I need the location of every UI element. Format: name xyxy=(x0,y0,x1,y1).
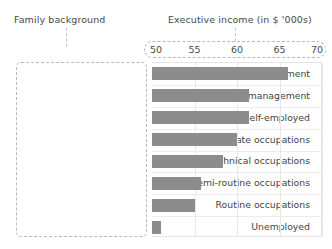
family-background-heading: Family background xyxy=(14,14,105,25)
bar xyxy=(152,89,249,102)
bar xyxy=(152,221,161,234)
x-tick-label-55: 55 xyxy=(188,44,200,55)
bar xyxy=(152,111,249,124)
x-tick-label-70: 70 xyxy=(311,44,323,55)
bar xyxy=(152,155,223,168)
bar xyxy=(152,133,237,146)
bar xyxy=(152,199,195,212)
chart-figure: Family background Executive income (in $… xyxy=(0,0,332,249)
executive-income-heading: Executive income (in $ '000s) xyxy=(168,14,312,25)
plot-area xyxy=(152,62,322,237)
x-tick-label-60: 60 xyxy=(231,44,243,55)
category-callout-box xyxy=(16,62,147,237)
gridline-vertical xyxy=(322,63,323,236)
bar xyxy=(152,67,288,80)
income-leader-line xyxy=(235,28,236,41)
x-tick-label-50: 50 xyxy=(150,44,162,55)
gridline-vertical xyxy=(280,63,281,236)
bar xyxy=(152,177,201,190)
x-tick-label-65: 65 xyxy=(273,44,285,55)
family-leader-line xyxy=(66,28,67,47)
